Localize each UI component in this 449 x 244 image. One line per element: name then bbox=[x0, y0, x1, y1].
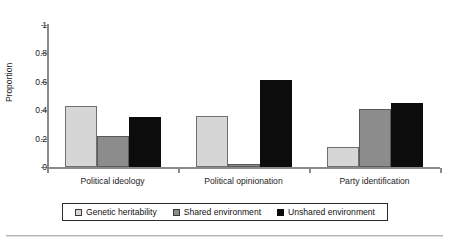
chart-legend: Genetic heritability Shared environment … bbox=[62, 203, 388, 221]
y-tick-0p2: 0.2 bbox=[0, 139, 47, 140]
bar-2-1 bbox=[359, 109, 391, 167]
y-tick-label: 0.8 bbox=[9, 49, 47, 58]
y-tick-0p6: 0.6 bbox=[0, 82, 47, 83]
x-tick-mark bbox=[47, 168, 49, 173]
x-tick-mark bbox=[440, 168, 442, 173]
legend-swatch-icon-unshared-environment bbox=[277, 209, 284, 216]
bar-2-2 bbox=[391, 103, 423, 167]
y-tick-1: 1 bbox=[0, 25, 47, 26]
y-tick-label: 0 bbox=[9, 163, 47, 172]
y-tick-0: 0 bbox=[0, 167, 47, 168]
x-axis-label-2: Party identification bbox=[305, 176, 445, 186]
bar-1-0 bbox=[196, 116, 228, 167]
y-tick-label: 0.2 bbox=[9, 135, 47, 144]
legend-swatch-icon-genetic-heritability bbox=[75, 209, 82, 216]
y-axis-line bbox=[47, 24, 49, 168]
chart-figure: Proportion 00.20.40.60.81 Political ideo… bbox=[0, 0, 449, 244]
y-tick-0p4: 0.4 bbox=[0, 110, 47, 111]
bar-0-2 bbox=[129, 117, 161, 167]
legend-label-unshared-environment: Unshared environment bbox=[288, 208, 375, 217]
y-tick-label: 1 bbox=[9, 21, 47, 30]
x-axis-line bbox=[47, 167, 440, 169]
bar-1-1 bbox=[228, 164, 260, 167]
bar-0-0 bbox=[65, 106, 97, 167]
legend-label-shared-environment: Shared environment bbox=[184, 208, 261, 217]
bar-2-0 bbox=[327, 147, 359, 167]
x-tick-mark bbox=[178, 168, 180, 173]
y-tick-label: 0.6 bbox=[9, 78, 47, 87]
legend-label-genetic-heritability: Genetic heritability bbox=[86, 208, 157, 217]
legend-item-genetic-heritability: Genetic heritability bbox=[75, 208, 157, 217]
x-axis-label-0: Political ideology bbox=[43, 176, 183, 186]
bar-1-2 bbox=[260, 80, 292, 167]
footer-rule-shadow bbox=[6, 236, 443, 237]
bar-0-1 bbox=[97, 136, 129, 167]
x-tick-mark bbox=[309, 168, 311, 173]
y-tick-label: 0.4 bbox=[9, 106, 47, 115]
legend-item-unshared-environment: Unshared environment bbox=[277, 208, 375, 217]
legend-item-shared-environment: Shared environment bbox=[173, 208, 261, 217]
y-tick-0p8: 0.8 bbox=[0, 53, 47, 54]
plot-area: Proportion 00.20.40.60.81 Political ideo… bbox=[0, 0, 449, 244]
x-axis-label-1: Political opinionation bbox=[174, 176, 314, 186]
legend-swatch-icon-shared-environment bbox=[173, 209, 180, 216]
